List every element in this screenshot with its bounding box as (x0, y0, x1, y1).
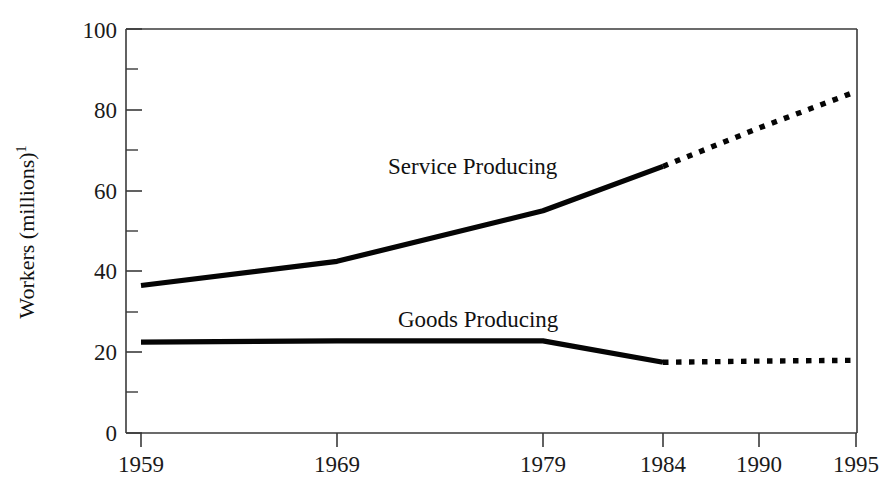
series-service-actual-line (141, 166, 663, 285)
plot-frame (126, 29, 857, 433)
series-label-goods-producing: Goods Producing (398, 307, 559, 332)
x-tick-label-1969: 1969 (314, 452, 360, 477)
series-goods-projected-line (663, 360, 856, 362)
x-axis-tick-labels: 1959 1969 1979 1984 1990 1995 (118, 452, 879, 477)
x-tick-label-1990: 1990 (736, 452, 782, 477)
svg-text:Workers (millions)1: Workers (millions)1 (14, 145, 39, 318)
x-tick-label-1984: 1984 (640, 452, 687, 477)
y-tick-label: 80 (94, 98, 117, 123)
x-tick-label-1979: 1979 (520, 452, 566, 477)
y-tick-label: 100 (83, 18, 118, 43)
y-axis-minor-ticks (126, 69, 138, 392)
y-axis-label-text: Workers (millions) (14, 152, 39, 318)
chart-figure: Workers (millions)1 (0, 0, 896, 489)
series-label-service-producing: Service Producing (388, 154, 558, 179)
y-axis-tick-labels: 0 20 40 60 80 100 (83, 18, 118, 446)
series-goods-actual-line (141, 341, 663, 362)
x-axis-ticks (141, 433, 856, 447)
y-tick-label: 20 (94, 340, 117, 365)
y-tick-label: 60 (94, 179, 117, 204)
line-chart-svg: Workers (millions)1 (0, 0, 896, 489)
x-tick-label-1959: 1959 (118, 452, 164, 477)
x-tick-label-1995: 1995 (833, 452, 879, 477)
y-tick-label: 40 (94, 259, 117, 284)
y-axis-label: Workers (millions)1 (14, 145, 39, 318)
y-axis-label-superscript: 1 (14, 145, 29, 152)
series-service-producing (141, 92, 856, 286)
series-service-projected-line (663, 92, 856, 167)
series-goods-producing (141, 341, 856, 362)
y-tick-label: 0 (106, 421, 118, 446)
